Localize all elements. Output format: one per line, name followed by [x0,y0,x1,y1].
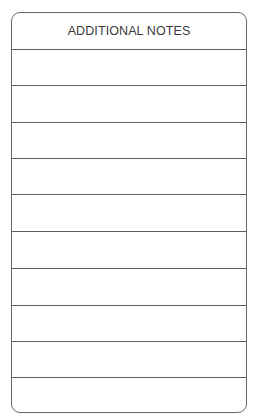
note-line-4[interactable] [12,194,246,195]
note-line-5[interactable] [12,231,246,232]
note-line-1[interactable] [12,85,246,86]
notes-card: ADDITIONAL NOTES [11,12,247,413]
note-line-6[interactable] [12,268,246,269]
note-line-8[interactable] [12,341,246,342]
header-divider [12,49,246,50]
note-line-2[interactable] [12,122,246,123]
note-line-9[interactable] [12,377,246,378]
note-line-7[interactable] [12,305,246,306]
notes-title: ADDITIONAL NOTES [12,13,246,49]
note-line-3[interactable] [12,158,246,159]
